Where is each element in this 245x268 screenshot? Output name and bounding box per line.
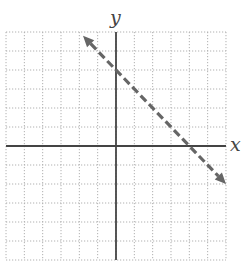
y-axis-label: y bbox=[110, 8, 121, 27]
x-axis-label: x bbox=[230, 135, 241, 154]
axes bbox=[6, 32, 226, 260]
dashed-line bbox=[91, 44, 219, 176]
dashed-boundary-line bbox=[83, 36, 226, 184]
coordinate-plane bbox=[0, 0, 245, 268]
